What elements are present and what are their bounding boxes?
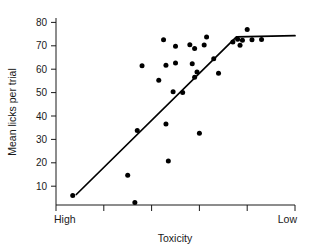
data-point — [204, 34, 209, 39]
data-point — [140, 63, 145, 68]
y-tick-label-50: 50 — [36, 87, 48, 98]
data-point — [125, 173, 130, 178]
data-point — [187, 42, 192, 47]
data-point — [238, 43, 243, 48]
data-point — [249, 37, 254, 42]
data-point — [135, 128, 140, 133]
y-axis-title: Mean licks per trial — [6, 68, 18, 156]
data-point — [202, 43, 207, 48]
data-point — [216, 71, 221, 76]
data-point — [230, 40, 235, 45]
plot-canvas: 80 70 60 50 40 30 20 10 High Low Toxicit… — [0, 0, 311, 248]
y-axis-ticks — [51, 22, 56, 186]
data-point — [195, 70, 200, 75]
y-axis-tick-labels: 80 70 60 50 40 30 20 10 — [36, 17, 48, 192]
data-point — [192, 46, 197, 51]
data-point — [161, 37, 166, 42]
data-point — [166, 158, 171, 163]
data-point — [245, 27, 250, 32]
data-point — [240, 38, 245, 43]
y-tick-label-80: 80 — [36, 17, 48, 28]
data-point — [211, 56, 216, 61]
x-axis-right-label: Low — [278, 213, 298, 225]
y-tick-label-60: 60 — [36, 64, 48, 75]
y-tick-label-20: 20 — [36, 157, 48, 168]
data-point — [197, 131, 202, 136]
y-tick-label-40: 40 — [36, 111, 48, 122]
y-tick-label-30: 30 — [36, 134, 48, 145]
data-point — [173, 61, 178, 66]
data-point — [163, 63, 168, 68]
fit-line — [76, 36, 295, 195]
data-point — [235, 37, 240, 42]
y-tick-label-10: 10 — [36, 181, 48, 192]
data-point — [156, 78, 161, 83]
data-point — [192, 75, 197, 80]
data-point — [190, 61, 195, 66]
data-point — [259, 37, 264, 42]
x-axis-left-label: High — [54, 213, 76, 225]
data-points-layer — [70, 27, 264, 205]
x-axis-ticks — [56, 205, 295, 211]
x-axis-title: Toxicity — [158, 232, 193, 244]
scatter-plot-figure: 80 70 60 50 40 30 20 10 High Low Toxicit… — [0, 0, 311, 248]
data-point — [180, 90, 185, 95]
data-point — [132, 200, 137, 205]
data-point — [171, 89, 176, 94]
y-tick-label-70: 70 — [36, 40, 48, 51]
data-point — [163, 121, 168, 126]
data-point — [70, 193, 75, 198]
data-point — [173, 44, 178, 49]
